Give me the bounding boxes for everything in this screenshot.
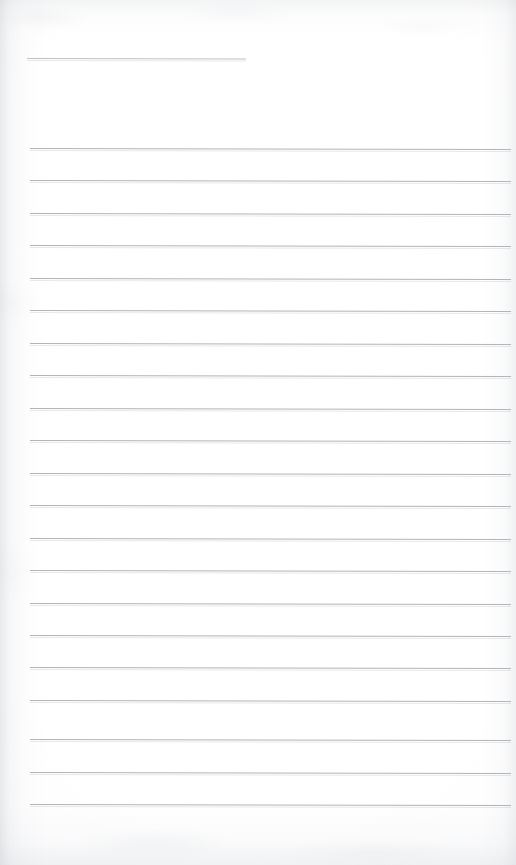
notebook-page	[0, 0, 516, 865]
rule-line-1	[30, 148, 511, 150]
rule-line-3	[30, 213, 511, 215]
rule-line-15	[30, 603, 511, 605]
rule-line-12	[30, 505, 511, 507]
rule-line-14	[30, 570, 511, 572]
rule-line-6	[30, 310, 511, 312]
rule-line-19	[30, 739, 511, 741]
rule-line-7	[30, 343, 511, 345]
rule-line-4	[30, 245, 511, 247]
rule-line-17	[30, 667, 511, 669]
rule-line-18	[30, 700, 511, 702]
rule-line-9	[30, 408, 511, 410]
rule-line-11	[30, 473, 511, 475]
paper-surface	[0, 0, 516, 865]
rule-line-21	[30, 804, 511, 806]
rule-line-2	[30, 180, 511, 182]
rule-line-8	[30, 375, 511, 377]
rule-line-16	[30, 635, 511, 637]
header-rule	[27, 58, 246, 59]
rule-line-5	[30, 278, 511, 280]
rule-line-20	[30, 772, 511, 774]
rule-line-10	[30, 440, 511, 442]
rule-line-13	[30, 538, 511, 540]
